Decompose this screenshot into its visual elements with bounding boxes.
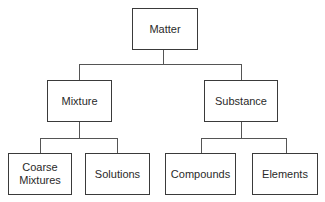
node-label: Coarse Mixtures [19,161,61,187]
connector-to-mixture [79,64,80,80]
connector-to-elements [286,138,287,153]
connector-to-compounds [201,138,202,153]
node-label: Compounds [171,168,230,181]
connector-to-coarse [40,138,41,153]
node-label: Substance [215,95,267,108]
node-label: Elements [262,168,308,181]
connector-level1-bar [79,64,242,65]
node-compounds: Compounds [165,153,236,195]
node-substance: Substance [204,80,278,122]
node-solutions: Solutions [85,153,150,195]
node-label: Solutions [95,168,140,181]
connector-substance-down [241,122,242,138]
node-matter: Matter [132,8,198,50]
connector-mixture-bar [40,138,118,139]
connector-matter-down [163,49,164,64]
connector-to-substance [241,64,242,80]
connector-substance-bar [201,138,287,139]
node-label: Mixture [61,95,97,108]
connector-mixture-down [79,122,80,138]
node-mixture: Mixture [47,80,112,122]
node-coarse-mixtures: Coarse Mixtures [8,153,72,195]
connector-to-solutions [117,138,118,153]
node-label: Matter [149,23,180,36]
node-elements: Elements [252,153,318,195]
